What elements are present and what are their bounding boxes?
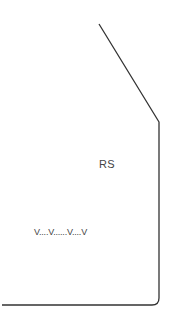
rs-label: RS (99, 158, 115, 170)
dotted-v-label: V....V......V....V (34, 227, 87, 237)
outline-shape (2, 24, 159, 305)
outline-diagram (0, 0, 180, 321)
